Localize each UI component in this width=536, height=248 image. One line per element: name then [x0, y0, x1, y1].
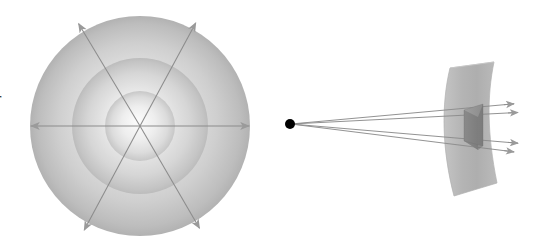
cone-ray-arrow-upper-inner	[508, 112, 518, 113]
cone-ray-arrow-lower-outer	[504, 151, 514, 152]
radiation-diagram-figure: r	[0, 0, 536, 248]
cone-ray-arrow-lower-inner	[508, 142, 518, 143]
point-source	[285, 119, 295, 129]
diagram-canvas	[0, 0, 536, 248]
cone-ray-arrow-upper-outer	[504, 104, 514, 105]
cone-ray-arrowheads-group	[504, 104, 518, 152]
